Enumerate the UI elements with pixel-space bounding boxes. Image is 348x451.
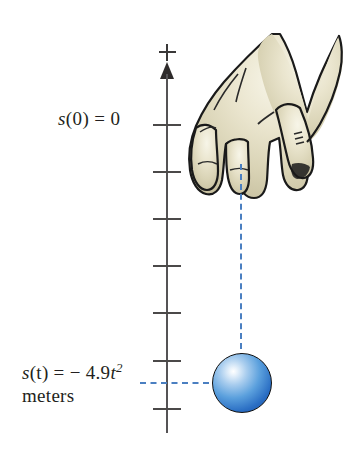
- falling-ball: [212, 353, 272, 413]
- position-function-argument: (t): [30, 362, 49, 383]
- position-function-coefficient: 4.9: [86, 362, 111, 383]
- axis-tick: [153, 408, 181, 410]
- hand-illustration: [176, 28, 348, 210]
- position-function-units: meters: [22, 385, 123, 407]
- initial-position-argument: (0): [66, 108, 89, 129]
- position-function-exponent: 2: [116, 360, 123, 375]
- position-function-equals: =: [54, 362, 65, 383]
- initial-position-equals: =: [94, 108, 105, 129]
- plus-sign-icon: [159, 44, 176, 61]
- position-function-minus: −: [70, 362, 81, 383]
- position-function-variable: s: [22, 362, 30, 383]
- axis-tick: [153, 360, 181, 362]
- index-finger: [226, 139, 249, 194]
- initial-position-label: s(0) = 0: [58, 108, 121, 130]
- initial-position-variable: s: [58, 108, 66, 129]
- middle-finger: [191, 125, 218, 190]
- free-fall-figure: s(0) = 0 s(t) = − 4.9t2 meters: [0, 0, 348, 451]
- vertical-axis-line: [166, 74, 168, 433]
- axis-tick: [153, 312, 181, 314]
- axis-tick: [153, 218, 181, 220]
- initial-position-value: 0: [111, 108, 121, 129]
- axis-tick: [153, 265, 181, 267]
- drop-path-dashed-line: [240, 164, 242, 359]
- position-function-label: s(t) = − 4.9t2 meters: [22, 360, 123, 407]
